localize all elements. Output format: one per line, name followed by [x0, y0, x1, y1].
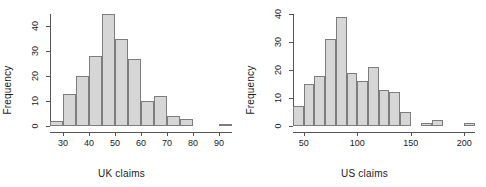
y-axis-tick-label: 10	[273, 89, 283, 107]
us-y-axis-title: Frequency	[245, 30, 257, 150]
x-axis-tick	[63, 132, 64, 136]
x-axis-tick-label: 90	[207, 138, 231, 148]
x-axis-tick-label: 200	[452, 138, 476, 148]
x-axis-tick	[464, 132, 465, 136]
x-axis-tick	[193, 132, 194, 136]
y-axis-tick	[46, 126, 50, 127]
us-histogram-panel: Frequency US claims 01020304050100150200	[243, 0, 486, 187]
x-axis-tick-label: 80	[181, 138, 205, 148]
x-axis-tick-label: 30	[51, 138, 75, 148]
histogram-bar	[115, 39, 128, 126]
x-axis-tick-label: 50	[292, 138, 316, 148]
uk-y-axis-title: Frequency	[2, 30, 14, 150]
x-axis-line	[293, 132, 475, 133]
y-axis-tick-label: 30	[273, 33, 283, 51]
histogram-bar	[325, 39, 336, 126]
x-axis-tick-label: 100	[345, 138, 369, 148]
histogram-bar	[389, 92, 400, 126]
x-axis-tick-label: 60	[129, 138, 153, 148]
x-axis-tick	[411, 132, 412, 136]
histogram-bar	[128, 59, 141, 126]
figure-root: Frequency UK claims 01020304030405060708…	[0, 0, 486, 187]
histogram-bar	[357, 81, 368, 126]
histogram-bar	[347, 73, 358, 126]
histogram-bar	[400, 112, 411, 126]
histogram-bar	[50, 121, 63, 126]
histogram-bar	[102, 14, 115, 126]
x-axis-tick	[141, 132, 142, 136]
us-bars	[293, 14, 475, 126]
y-axis-tick-label: 0	[273, 117, 283, 135]
x-axis-tick-label: 50	[103, 138, 127, 148]
y-axis-tick-label: 40	[273, 5, 283, 23]
histogram-bar	[167, 116, 180, 126]
y-axis-tick-label: 10	[30, 92, 40, 110]
x-axis-tick	[304, 132, 305, 136]
x-axis-tick	[357, 132, 358, 136]
x-axis-tick-label: 70	[155, 138, 179, 148]
y-axis-tick-label: 30	[30, 42, 40, 60]
us-x-axis-title: US claims	[243, 168, 486, 179]
x-axis-tick	[219, 132, 220, 136]
uk-x-axis-title: UK claims	[0, 168, 243, 179]
histogram-bar	[432, 120, 443, 126]
histogram-bar	[154, 96, 167, 126]
x-axis-tick	[167, 132, 168, 136]
x-axis-tick-label: 40	[77, 138, 101, 148]
histogram-bar	[219, 124, 232, 126]
x-axis-tick	[89, 132, 90, 136]
histogram-bar	[63, 94, 76, 126]
histogram-bar	[141, 101, 154, 126]
x-axis-tick	[115, 132, 116, 136]
x-axis-tick-label: 150	[399, 138, 423, 148]
histogram-bar	[464, 123, 475, 126]
y-axis-tick	[289, 126, 293, 127]
histogram-bar	[293, 106, 304, 126]
histogram-bar	[421, 123, 432, 126]
histogram-bar	[89, 56, 102, 126]
y-axis-tick-label: 20	[273, 61, 283, 79]
uk-bars	[50, 14, 232, 126]
uk-histogram-panel: Frequency UK claims 01020304030405060708…	[0, 0, 243, 187]
histogram-bar	[304, 84, 315, 126]
histogram-bar	[379, 90, 390, 126]
histogram-bar	[180, 119, 193, 126]
y-axis-tick-label: 40	[30, 17, 40, 35]
y-axis-tick-label: 0	[30, 117, 40, 135]
histogram-bar	[368, 67, 379, 126]
y-axis-tick-label: 20	[30, 67, 40, 85]
histogram-bar	[76, 76, 89, 126]
histogram-bar	[336, 17, 347, 126]
histogram-bar	[314, 76, 325, 126]
